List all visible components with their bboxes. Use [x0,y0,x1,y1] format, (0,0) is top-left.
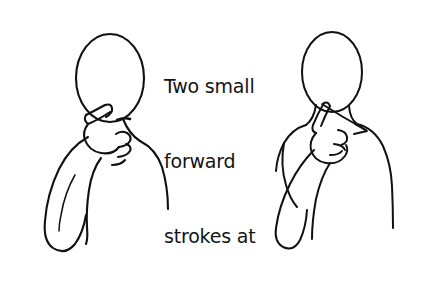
shoulder-left-line [284,125,306,143]
fist-outline [84,124,119,153]
knuckle-3 [112,160,125,165]
figure-right-drawing [270,0,425,281]
knuckle-3 [330,151,342,155]
caption-line-1: Two small [164,74,284,99]
index-finger-outer [86,104,112,117]
knuckle-1 [338,130,347,145]
figure-left-drawing [0,0,170,281]
head-shape [76,34,144,122]
caption-line-2: forward [164,149,284,174]
forearm-outer-line [276,150,314,248]
figure-left [0,0,170,281]
caption-text: Two small forward strokes at corner of m… [164,24,284,281]
forearm-inner-line [312,163,330,239]
figure-right [270,0,425,281]
forearm-inner-line [86,158,101,244]
forearm-crease [59,175,75,231]
finger-tip-cap [85,115,88,124]
shoulder-right-line [357,124,393,228]
fist-outline [311,133,348,163]
head-shape [302,32,362,112]
illustration-canvas: Two small forward strokes at corner of m… [0,0,425,281]
caption-line-3: strokes at [164,224,284,249]
